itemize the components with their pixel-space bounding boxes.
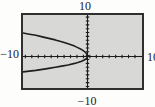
- window-label-ymax: 10: [75, 0, 95, 12]
- curve-upper-branch: [23, 33, 88, 57]
- window-label-xmin: −10: [0, 48, 19, 60]
- calculator-screen: [21, 13, 144, 90]
- calculator-graph-figure: 10 −10 10 −10: [0, 0, 155, 107]
- curve-lower-branch: [23, 57, 88, 72]
- window-label-ymin: −10: [75, 95, 99, 107]
- window-label-xmax: 10: [147, 51, 155, 63]
- graph-plot-area: [23, 15, 142, 88]
- curve-layer: [23, 33, 88, 72]
